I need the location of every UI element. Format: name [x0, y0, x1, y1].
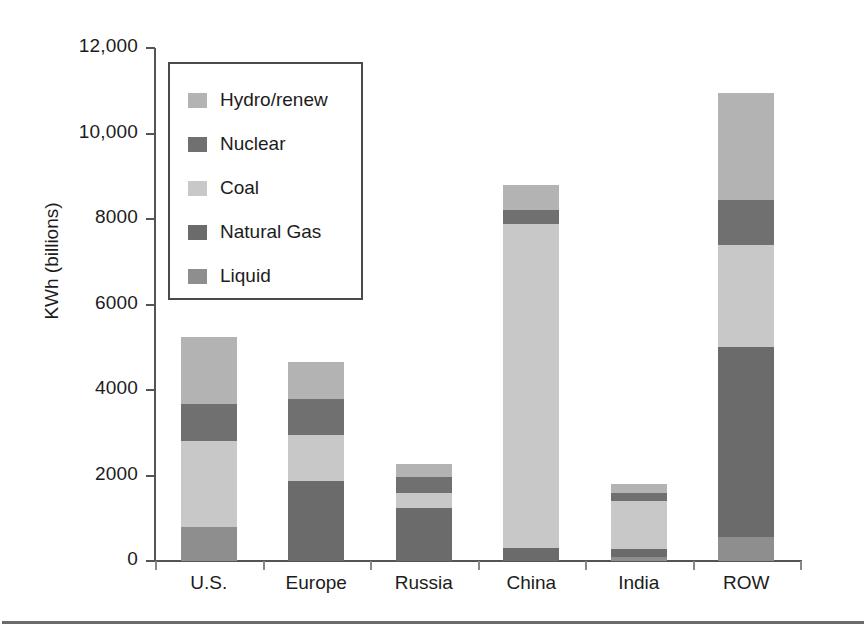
legend-swatch-icon [188, 93, 207, 108]
y-axis-ticks: 0200040006000800010,00012,000 [0, 0, 156, 635]
bar-segment-coal[interactable] [181, 441, 237, 527]
bar-segment-hydro-renew[interactable] [503, 185, 559, 211]
y-axis-tick-label: 6000 [20, 292, 138, 314]
y-axis-tick-mark [146, 389, 155, 391]
x-axis-tick-mark [263, 561, 265, 570]
y-axis-tick-label: 0 [20, 548, 138, 570]
chart-figure: 0200040006000800010,00012,000 KWh (billi… [0, 0, 866, 635]
stacked-bar[interactable] [396, 464, 452, 561]
x-axis-tick-mark [370, 561, 372, 570]
y-axis-tick-mark [146, 560, 155, 562]
bar-segment-coal[interactable] [718, 245, 774, 348]
y-axis-tick-label: 12,000 [20, 35, 138, 57]
y-axis-tick-label: 10,000 [20, 121, 138, 143]
bottom-divider-rule [2, 621, 864, 624]
stacked-bar[interactable] [288, 362, 344, 561]
x-axis-tick-mark [800, 561, 802, 570]
bar-segment-nuclear[interactable] [611, 493, 667, 501]
x-axis-tick-mark [478, 561, 480, 570]
legend-swatch-icon [188, 137, 207, 152]
y-axis-tick-label: 2000 [20, 463, 138, 485]
bar-segment-coal[interactable] [503, 224, 559, 548]
bar-segment-liquid[interactable] [611, 557, 667, 561]
bar-segment-natural-gas[interactable] [611, 549, 667, 556]
legend-item[interactable]: Liquid [188, 254, 361, 298]
y-axis-tick-mark [146, 304, 155, 306]
stacked-bar[interactable] [718, 93, 774, 561]
y-axis-tick-label: 4000 [20, 377, 138, 399]
bar-segment-nuclear[interactable] [503, 210, 559, 224]
y-axis-title: KWh (billions) [41, 131, 63, 391]
bar-segment-natural-gas[interactable] [718, 347, 774, 537]
legend-item-label: Nuclear [220, 133, 285, 155]
bar-segment-liquid[interactable] [718, 537, 774, 561]
bar-segment-nuclear[interactable] [181, 404, 237, 442]
y-axis-tick-mark [146, 47, 155, 49]
bar-segment-nuclear[interactable] [718, 200, 774, 245]
stacked-bar[interactable] [181, 337, 237, 561]
bar-segment-hydro-renew[interactable] [718, 93, 774, 200]
x-axis-label-row: ROW [681, 572, 811, 594]
legend-item[interactable]: Hydro/renew [188, 78, 361, 122]
y-axis-tick-label-text: 12,000 [28, 35, 138, 57]
bar-segment-liquid[interactable] [181, 527, 237, 561]
y-axis-tick-label: 8000 [20, 206, 138, 228]
bar-segment-hydro-renew[interactable] [396, 464, 452, 478]
bar-segment-coal[interactable] [288, 435, 344, 481]
legend-item[interactable]: Coal [188, 166, 361, 210]
legend-item-label: Natural Gas [220, 221, 321, 243]
legend-item[interactable]: Nuclear [188, 122, 361, 166]
y-axis-tick-mark [146, 133, 155, 135]
stacked-bar[interactable] [503, 185, 559, 561]
legend-item-label: Liquid [220, 265, 271, 287]
x-axis-tick-mark [155, 561, 157, 570]
bar-segment-coal[interactable] [396, 493, 452, 508]
y-axis-tick-label-text: 2000 [28, 463, 138, 485]
x-axis-tick-mark [585, 561, 587, 570]
bar-segment-natural-gas[interactable] [503, 548, 559, 561]
legend-swatch-icon [188, 225, 207, 240]
bar-segment-natural-gas[interactable] [288, 481, 344, 561]
y-axis-tick-mark [146, 475, 155, 477]
bar-segment-nuclear[interactable] [396, 477, 452, 493]
x-axis-tick-mark [693, 561, 695, 570]
legend-item-label: Hydro/renew [220, 89, 328, 111]
legend-swatch-icon [188, 269, 207, 284]
legend-item[interactable]: Natural Gas [188, 210, 361, 254]
y-axis-tick-label-text: 0 [28, 548, 138, 570]
legend-swatch-icon [188, 181, 207, 196]
bar-segment-hydro-renew[interactable] [611, 484, 667, 493]
bar-segment-hydro-renew[interactable] [288, 362, 344, 398]
bar-segment-nuclear[interactable] [288, 399, 344, 435]
legend-item-label: Coal [220, 177, 259, 199]
bar-segment-hydro-renew[interactable] [181, 337, 237, 404]
y-axis-tick-mark [146, 218, 155, 220]
stacked-bar[interactable] [611, 484, 667, 561]
bar-segment-coal[interactable] [611, 501, 667, 549]
chart-legend: Hydro/renewNuclearCoalNatural GasLiquid [168, 62, 363, 300]
bar-segment-natural-gas[interactable] [396, 508, 452, 561]
